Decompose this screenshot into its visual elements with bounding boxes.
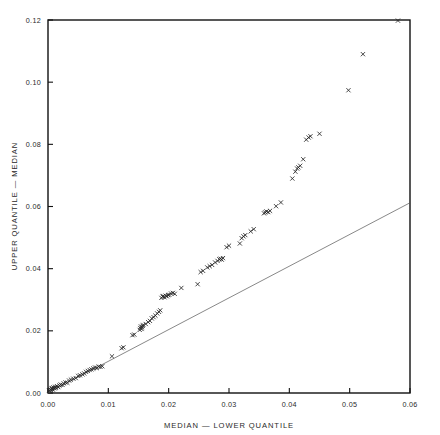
- y-axis-ticks: [48, 20, 53, 393]
- plot-canvas: 0.000.010.020.030.040.050.06 0.000.020.0…: [0, 0, 440, 435]
- x-axis-title: MEDIAN — LOWER QUANTILE: [164, 421, 294, 430]
- data-point-marker: [274, 204, 278, 208]
- y-tick-label: 0.12: [26, 16, 41, 25]
- data-point-marker: [158, 308, 162, 312]
- y-axis-title: UPPER QUANTILE — MEDIAN: [10, 142, 19, 270]
- x-tick-label: 0.05: [342, 400, 357, 409]
- data-point-marker: [279, 200, 283, 204]
- x-tick-label: 0.04: [282, 400, 297, 409]
- data-point-marker: [148, 319, 152, 323]
- y-tick-label: 0.02: [26, 326, 41, 335]
- x-axis-ticks: [48, 388, 410, 393]
- data-point-marker: [243, 233, 247, 237]
- data-point-marker: [179, 286, 183, 290]
- x-tick-label: 0.06: [402, 400, 417, 409]
- data-point-marker: [301, 157, 305, 161]
- data-point-marker: [238, 241, 242, 245]
- identity-reference-line: [48, 203, 410, 393]
- data-point-marker: [249, 229, 253, 233]
- y-tick-label: 0.08: [26, 140, 41, 149]
- y-tick-label: 0.04: [26, 264, 41, 273]
- data-point-marker: [224, 245, 228, 249]
- data-point-marker: [361, 52, 365, 56]
- data-point-marker: [110, 354, 114, 358]
- data-point-marker: [268, 209, 272, 213]
- data-point-marker: [252, 227, 256, 231]
- quantile-scatter-figure: 0.000.010.020.030.040.050.06 0.000.020.0…: [0, 0, 440, 435]
- x-tick-label: 0.00: [40, 400, 55, 409]
- data-point-marker: [290, 176, 294, 180]
- data-point-marker: [298, 164, 302, 168]
- y-tick-label: 0.00: [26, 389, 41, 398]
- data-point-marker: [196, 282, 200, 286]
- x-axis-tick-labels: 0.000.010.020.030.040.050.06: [40, 400, 417, 409]
- y-tick-label: 0.10: [26, 78, 41, 87]
- data-point-marker: [308, 134, 312, 138]
- y-tick-label: 0.06: [26, 202, 41, 211]
- data-point-marker: [213, 260, 217, 264]
- data-point-marker: [227, 244, 231, 248]
- data-point-marker: [346, 88, 350, 92]
- x-tick-label: 0.03: [221, 400, 236, 409]
- x-tick-label: 0.01: [101, 400, 116, 409]
- scatter-data-markers: [47, 19, 400, 393]
- data-point-marker: [317, 132, 321, 136]
- x-tick-label: 0.02: [161, 400, 176, 409]
- plot-frame: [48, 20, 410, 393]
- y-axis-tick-labels: 0.000.020.040.060.080.100.12: [26, 16, 41, 398]
